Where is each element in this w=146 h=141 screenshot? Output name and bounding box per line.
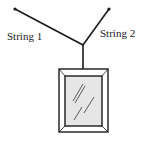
hanging-frame-diagram — [0, 0, 146, 141]
picture-glass — [65, 76, 102, 126]
string-1-label: String 1 — [7, 31, 42, 42]
string-2-anchor — [107, 7, 110, 10]
string-2-label: String 2 — [100, 28, 135, 39]
string-1-anchor — [13, 7, 16, 10]
